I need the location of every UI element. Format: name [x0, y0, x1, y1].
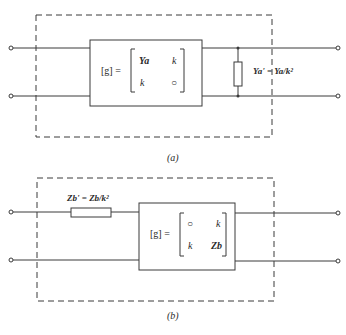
terminal-a-in-top	[9, 46, 13, 50]
matrix-a-r1c1: Ya	[139, 56, 149, 66]
terminal-a-in-bottom	[9, 94, 13, 98]
matrix-b-r2c1: k	[188, 241, 192, 251]
series-label-b: Zb' = Zb/k²	[67, 194, 109, 203]
shunt-label-a: Ya' = Ya/k²	[253, 67, 293, 76]
matrix-b-r1c1: ○	[187, 219, 193, 229]
caption-b: (b)	[167, 310, 179, 321]
shunt-admittance-a	[234, 62, 242, 86]
dashed-boundary-a	[36, 15, 272, 137]
circuit-diagram	[0, 0, 346, 335]
matrix-b-r1c2: k	[216, 219, 220, 229]
junction-dot-bottom	[237, 95, 240, 98]
terminal-b-out-top	[336, 211, 340, 215]
terminal-b-in-bottom	[9, 258, 13, 262]
matrix-a-r1c2: k	[172, 56, 176, 66]
terminal-a-out-bottom	[336, 94, 340, 98]
matrix-b-r2c2: Zb	[211, 241, 222, 251]
matrix-a-r2c2: ○	[171, 78, 177, 88]
matrix-lhs-b: [g] =	[150, 229, 170, 239]
series-impedance-b	[71, 208, 111, 217]
matrix-a-r2c1: k	[140, 78, 144, 88]
caption-a: (a)	[167, 152, 179, 163]
matrix-lhs-a: [g] =	[101, 66, 121, 76]
terminal-a-out-top	[336, 46, 340, 50]
terminal-b-out-bottom	[336, 259, 340, 263]
junction-dot-top	[237, 47, 240, 50]
terminal-b-in-top	[9, 210, 13, 214]
